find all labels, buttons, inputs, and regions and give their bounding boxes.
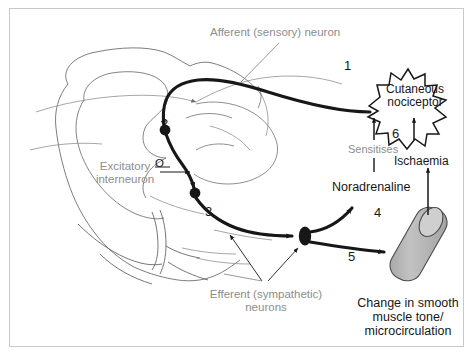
sensitises-label: Sensitises: [348, 143, 398, 155]
nociceptor-label: Cutaneous nociceptor: [378, 83, 452, 110]
vessel-caption: Change in smooth muscle tone/ microcircu…: [348, 296, 468, 338]
efferent-neuron-fibres: [310, 208, 384, 252]
excitatory-interneuron-label: Excitatory interneuron: [86, 160, 164, 186]
step-2: 2: [161, 117, 168, 132]
central-canal: [78, 210, 208, 284]
afferent-neuron-fibre: [163, 80, 370, 236]
blood-vessel-cylinder: [390, 203, 448, 280]
efferent-leaders: [224, 235, 298, 281]
step-5: 5: [348, 250, 355, 265]
efferent-label: Efferent (sympathetic) neurons: [196, 288, 336, 314]
step-1: 1: [344, 59, 351, 74]
step-4: 4: [374, 206, 381, 221]
figure-canvas: Afferent (sensory) neuron Excitatory int…: [0, 0, 473, 356]
synapse-dot-three: [190, 188, 201, 199]
noradrenaline-label: Noradrenaline: [332, 180, 411, 194]
step-3: 3: [205, 205, 212, 220]
gray-matter-outline: [76, 72, 168, 219]
step-6: 6: [392, 127, 399, 142]
afferent-leader: [241, 43, 279, 82]
afferent-label: Afferent (sensory) neuron: [210, 26, 340, 39]
excitatory-symbol: O: [155, 157, 164, 170]
ischaemia-label: Ischaemia: [394, 155, 449, 168]
